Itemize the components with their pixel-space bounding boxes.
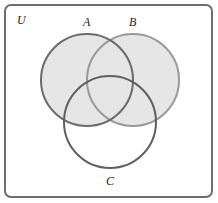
set-c-label: C <box>106 174 115 188</box>
venn-diagram: U A B C <box>0 0 218 203</box>
set-b-label: B <box>129 15 137 29</box>
shaded-union-a-b <box>41 34 179 126</box>
set-a-label: A <box>82 15 91 29</box>
universe-label: U <box>17 13 27 27</box>
